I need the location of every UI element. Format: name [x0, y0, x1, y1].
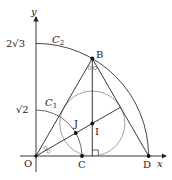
- point-d: [147, 154, 151, 158]
- diagram-canvas: y x 2√3 √2 C2 C1 B O C D I J: [0, 0, 172, 180]
- tick-label-2sqrt3: 2√3: [6, 38, 25, 49]
- label-i: I: [95, 126, 99, 137]
- bisector-o: [36, 107, 121, 156]
- tick-label-sqrt2: √2: [16, 104, 29, 115]
- angle-mark-b-1: [88, 66, 91, 69]
- right-angle-mark: [92, 150, 98, 156]
- point-i: [90, 122, 94, 126]
- label-j: J: [73, 118, 78, 129]
- angle-mark-o-2: [47, 150, 50, 153]
- point-j: [74, 131, 78, 135]
- point-b: [90, 57, 94, 61]
- label-b: B: [96, 49, 103, 60]
- label-c: C: [78, 159, 86, 170]
- curve-label-c1: C1: [45, 97, 57, 110]
- y-axis-label: y: [30, 6, 37, 17]
- label-o: O: [24, 158, 32, 169]
- point-c: [80, 154, 84, 158]
- label-d: D: [143, 159, 151, 170]
- point-o: [34, 154, 37, 157]
- x-axis-label: x: [157, 158, 163, 169]
- angle-mark-o-1: [44, 146, 47, 149]
- angle-mark-b-2: [93, 66, 96, 69]
- geometry-diagram: y x 2√3 √2 C2 C1 B O C D I J: [0, 0, 172, 180]
